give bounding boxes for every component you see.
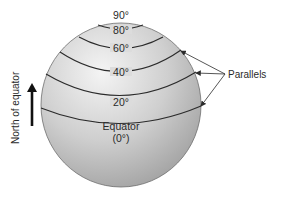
globe-diagram: 90° 80° 60° 40° 20° Equator (0°) Paralle… [0, 0, 282, 199]
label-40: 40° [113, 66, 129, 78]
parallels-label: Parallels [228, 69, 266, 80]
label-20: 20° [113, 96, 129, 108]
label-60: 60° [113, 42, 129, 54]
label-90: 90° [113, 9, 129, 21]
north-of-equator-label: North of equator [10, 71, 21, 144]
label-80: 80° [113, 24, 129, 36]
label-equator-degrees: (0°) [112, 132, 129, 144]
label-equator: Equator [103, 120, 140, 132]
